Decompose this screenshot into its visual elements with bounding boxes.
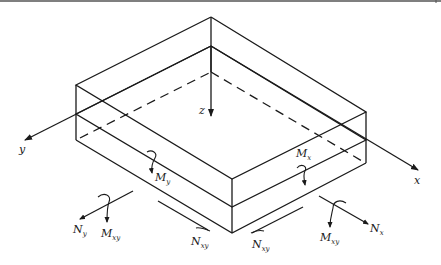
force-nxy-right: Nxy (251, 207, 303, 253)
moment-my-arrow-icon (147, 151, 156, 173)
plate-bottom-front-edges (76, 140, 366, 233)
moment-my-label: My (154, 171, 171, 186)
moment-mxy-left: Mxy (98, 195, 121, 242)
force-ny-label: Ny (72, 223, 88, 238)
axis-z: z (198, 46, 211, 117)
force-nxy-left: Nxy (158, 201, 210, 250)
axis-x-label: x (414, 174, 421, 187)
plate-diagram: x y z My Mx Ny Mxy Nxy Nxy Nx (0, 0, 441, 265)
moment-mxy-right: Mxy (319, 201, 346, 246)
moment-mxy-right-label: Mxy (319, 231, 340, 246)
moment-mx: Mx (295, 147, 311, 185)
force-nxy-right-hook-icon (251, 231, 264, 233)
force-nx-label: Nx (369, 222, 384, 237)
axis-y-arrow (25, 46, 211, 140)
plate-top-face (76, 17, 366, 179)
moment-mx-label: Mx (295, 147, 311, 162)
moment-mx-arrow-icon (297, 165, 306, 185)
axis-y-label: y (18, 143, 26, 156)
force-nx-arrow-icon (319, 196, 368, 224)
force-nxy-left-line (158, 201, 208, 230)
plate-bottom-hidden-edges (80, 72, 362, 161)
axis-x: x (211, 46, 421, 187)
force-nxy-right-label: Nxy (251, 238, 271, 253)
plate-diagram-svg: x y z My Mx Ny Mxy Nxy Nxy Nx (0, 0, 441, 265)
force-nxy-left-label: Nxy (190, 235, 210, 250)
moment-mxy-right-arrow-icon (330, 201, 346, 227)
axis-y: y (18, 46, 211, 156)
axis-x-arrow (211, 46, 418, 170)
axis-z-label: z (198, 104, 205, 117)
force-nxy-right-line (252, 207, 303, 233)
moment-mxy-left-label: Mxy (100, 227, 121, 242)
plate-middle-plane (76, 46, 366, 207)
